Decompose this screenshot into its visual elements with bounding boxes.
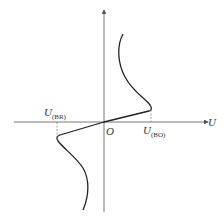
- lower-curve: [57, 122, 104, 210]
- origin-label: O: [106, 126, 114, 137]
- diagram-canvas: U O U(BO) U(BR): [0, 0, 223, 223]
- ubo-label: U(BO): [143, 125, 165, 136]
- ubr-label-sub: (BR): [52, 113, 66, 121]
- upper-curve: [104, 34, 151, 122]
- ubo-label-sub: (BO): [151, 131, 165, 139]
- x-axis-label: U: [208, 117, 216, 128]
- ubo-label-main: U: [143, 124, 151, 136]
- characteristic-plot: [0, 0, 223, 223]
- ubr-label-main: U: [44, 106, 52, 118]
- ubr-label: U(BR): [44, 107, 66, 118]
